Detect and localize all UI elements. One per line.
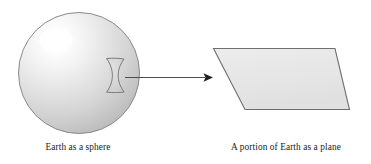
earth-sphere-group <box>19 13 140 134</box>
diagram-canvas: Earth as a sphere A portion of Earth as … <box>0 0 371 164</box>
plane-parallelogram <box>214 49 350 110</box>
sphere-highlight <box>39 27 73 53</box>
caption-sphere: Earth as a sphere <box>46 142 111 152</box>
figure-container: Earth as a sphere A portion of Earth as … <box>0 0 371 164</box>
earth-sphere <box>19 13 140 134</box>
plane-parallelogram-group <box>214 49 350 110</box>
caption-plane: A portion of Earth as a plane <box>231 142 341 152</box>
